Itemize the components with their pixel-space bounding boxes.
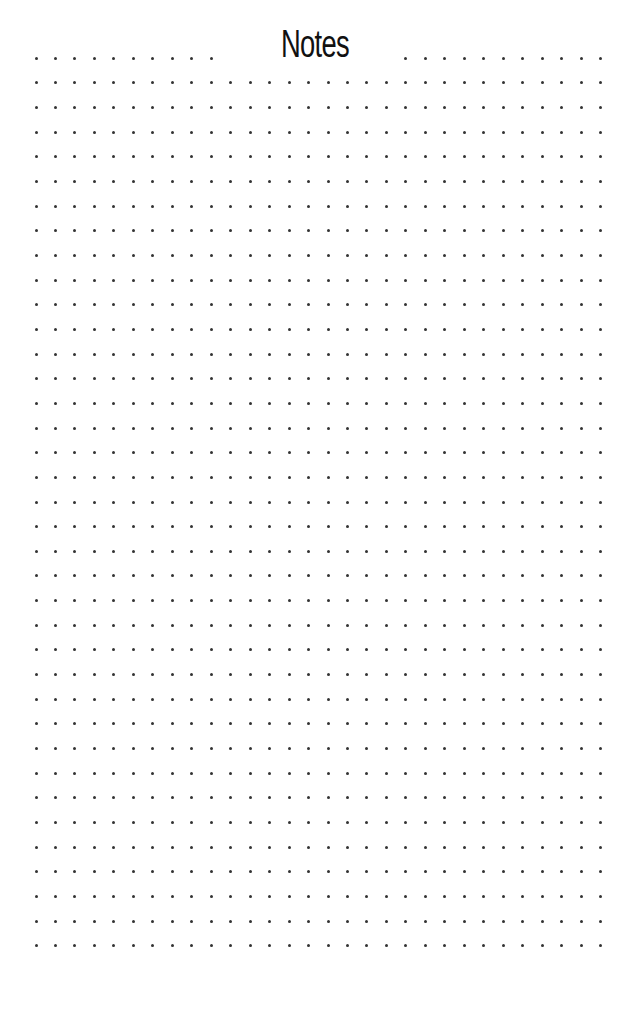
grid-dot: [482, 81, 485, 84]
grid-dot: [288, 920, 291, 923]
grid-dot: [93, 377, 96, 380]
grid-dot: [580, 895, 583, 898]
grid-dot: [190, 106, 193, 109]
grid-dot: [580, 920, 583, 923]
grid-dot: [210, 846, 213, 849]
grid-dot: [288, 303, 291, 306]
grid-dot: [599, 870, 602, 873]
grid-dot: [112, 870, 115, 873]
grid-dot: [521, 131, 524, 134]
grid-dot: [327, 402, 330, 405]
grid-dot: [580, 106, 583, 109]
grid-dot: [541, 920, 544, 923]
grid-dot: [35, 106, 38, 109]
grid-dot: [190, 180, 193, 183]
grid-dot: [112, 722, 115, 725]
grid-dot: [73, 525, 76, 528]
grid-dot: [502, 229, 505, 232]
grid-dot: [73, 895, 76, 898]
grid-dot: [171, 747, 174, 750]
grid-dot: [210, 279, 213, 282]
grid-dot: [307, 451, 310, 454]
grid-dot: [541, 574, 544, 577]
grid-dot: [249, 328, 252, 331]
grid-dot: [268, 821, 271, 824]
grid-dot: [443, 944, 446, 947]
grid-dot: [151, 501, 154, 504]
grid-dot: [385, 870, 388, 873]
grid-dot: [580, 772, 583, 775]
grid-dot: [210, 920, 213, 923]
grid-dot: [443, 106, 446, 109]
grid-dot: [327, 772, 330, 775]
grid-dot: [599, 451, 602, 454]
grid-dot: [385, 155, 388, 158]
grid-dot: [443, 180, 446, 183]
grid-dot: [190, 476, 193, 479]
grid-dot: [229, 821, 232, 824]
grid-dot: [560, 525, 563, 528]
grid-dot: [385, 81, 388, 84]
grid-dot: [482, 501, 485, 504]
grid-dot: [151, 476, 154, 479]
grid-dot: [346, 870, 349, 873]
grid-dot: [112, 648, 115, 651]
grid-dot: [502, 648, 505, 651]
grid-dot: [404, 402, 407, 405]
grid-dot: [424, 328, 427, 331]
grid-dot: [541, 402, 544, 405]
grid-dot: [35, 377, 38, 380]
grid-dot: [307, 377, 310, 380]
grid-dot: [73, 821, 76, 824]
grid-dot: [54, 944, 57, 947]
grid-dot: [327, 698, 330, 701]
grid-dot: [93, 180, 96, 183]
grid-dot: [35, 353, 38, 356]
grid-dot: [229, 229, 232, 232]
grid-dot: [599, 895, 602, 898]
grid-dot: [190, 279, 193, 282]
grid-dot: [73, 747, 76, 750]
grid-dot: [541, 476, 544, 479]
grid-dot: [249, 81, 252, 84]
grid-dot: [229, 451, 232, 454]
grid-dot: [132, 574, 135, 577]
grid-dot: [599, 574, 602, 577]
grid-dot: [307, 673, 310, 676]
grid-dot: [580, 205, 583, 208]
grid-dot: [443, 550, 446, 553]
grid-dot: [482, 279, 485, 282]
grid-dot: [35, 155, 38, 158]
grid-dot: [424, 846, 427, 849]
grid-dot: [327, 944, 330, 947]
grid-dot: [482, 476, 485, 479]
grid-dot: [288, 328, 291, 331]
grid-dot: [482, 180, 485, 183]
grid-dot: [580, 303, 583, 306]
grid-dot: [151, 550, 154, 553]
grid-dot: [229, 254, 232, 257]
grid-dot: [229, 353, 232, 356]
grid-dot: [307, 427, 310, 430]
grid-dot: [541, 155, 544, 158]
grid-dot: [365, 131, 368, 134]
grid-dot: [151, 796, 154, 799]
grid-dot: [132, 57, 135, 60]
grid-dot: [521, 821, 524, 824]
grid-dot: [112, 106, 115, 109]
grid-dot: [580, 451, 583, 454]
grid-dot: [288, 106, 291, 109]
grid-dot: [35, 476, 38, 479]
grid-dot: [424, 229, 427, 232]
grid-dot: [365, 525, 368, 528]
grid-dot: [93, 772, 96, 775]
grid-dot: [132, 229, 135, 232]
grid-dot: [346, 846, 349, 849]
grid-dot: [560, 920, 563, 923]
grid-dot: [307, 624, 310, 627]
grid-dot: [365, 328, 368, 331]
grid-dot: [229, 574, 232, 577]
grid-dot: [171, 895, 174, 898]
grid-dot: [73, 501, 76, 504]
grid-dot: [93, 722, 96, 725]
